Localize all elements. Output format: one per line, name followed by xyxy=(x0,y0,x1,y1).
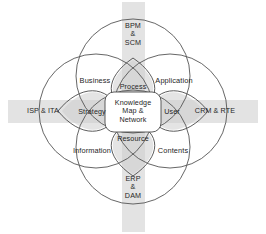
core-region xyxy=(105,92,161,132)
diagram-canvas: BPM & SCM CRM & RTE ERP & DAM ISP & ITA … xyxy=(0,0,266,234)
venn-diagram-graphic xyxy=(0,0,266,234)
